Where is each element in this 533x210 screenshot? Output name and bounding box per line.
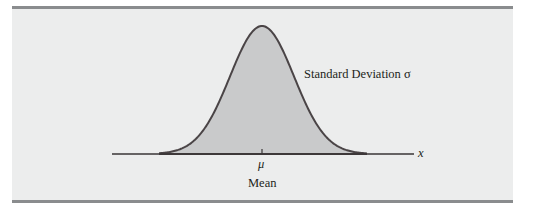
std-dev-label: Standard Deviation σ	[304, 67, 411, 82]
bell-curve	[160, 26, 366, 154]
x-axis-label: x	[418, 146, 424, 161]
mu-label: μ	[258, 157, 264, 172]
mean-label: Mean	[248, 176, 276, 191]
